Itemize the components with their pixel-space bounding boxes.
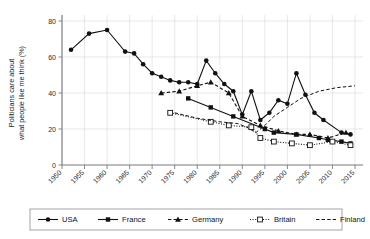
series-marker-britain: [258, 136, 263, 141]
series-marker-usa: [213, 71, 218, 76]
y-tick-label: 80: [48, 18, 56, 25]
legend-label-germany: Germany: [192, 215, 223, 224]
x-tick-label: 1980: [182, 169, 198, 185]
x-tick-label: 1995: [250, 169, 266, 185]
series-marker-britain: [308, 143, 313, 148]
series-marker-usa: [222, 82, 227, 87]
series-marker-germany: [343, 130, 349, 135]
legend-label-france: France: [122, 215, 146, 224]
x-tick-label: 2000: [272, 169, 288, 185]
series-marker-usa: [177, 80, 182, 85]
x-tick-label: 1985: [205, 169, 221, 185]
series-marker-germany: [307, 132, 313, 137]
series-marker-usa: [321, 118, 326, 123]
series-marker-usa: [294, 71, 299, 76]
chart-container: 1950195519601965197019751980198519901995…: [0, 0, 370, 239]
series-marker-usa: [231, 89, 236, 94]
y-tick-label: 60: [48, 54, 56, 61]
x-tick-label: 1955: [69, 169, 85, 185]
legend-marker-usa: [46, 217, 51, 222]
series-marker-usa: [249, 89, 254, 94]
series-marker-france: [209, 105, 213, 109]
series-marker-usa: [276, 98, 281, 103]
series-marker-france: [272, 130, 276, 134]
series-marker-france: [186, 96, 190, 100]
legend-marker-france: [106, 217, 110, 221]
y-axis-tick-labels: 020406080: [48, 18, 56, 169]
x-tick-label: 2005: [295, 169, 311, 185]
series-marker-usa: [159, 75, 164, 80]
series-marker-britain: [226, 123, 231, 128]
series-marker-usa: [150, 71, 155, 76]
legend-label-finland: Finland: [340, 215, 365, 224]
x-axis-tick-labels: 1950195519601965197019751980198519901995…: [47, 169, 356, 185]
series-marker-usa: [105, 28, 110, 33]
y-axis-title-line: what people like me think (%): [17, 46, 26, 141]
gridlines: [62, 15, 363, 165]
series-marker-usa: [132, 51, 137, 56]
y-tick-label: 20: [48, 126, 56, 133]
series-marker-usa: [123, 49, 128, 54]
series-marker-usa: [168, 78, 173, 83]
x-tick-label: 1990: [227, 169, 243, 185]
series-marker-france: [231, 114, 235, 118]
series-marker-usa: [348, 132, 353, 137]
legend-label-britain: Britain: [274, 215, 296, 224]
series-marker-germany: [208, 79, 214, 84]
y-tick-label: 0: [52, 162, 56, 169]
series-marker-usa: [285, 102, 290, 107]
x-tick-label: 2010: [317, 169, 333, 185]
series-marker-britain: [289, 141, 294, 146]
x-tick-label: 1950: [47, 169, 63, 185]
y-tick-label: 40: [48, 90, 56, 97]
data-series: [69, 28, 355, 148]
series-marker-usa: [312, 111, 317, 116]
x-tick-label: 1970: [137, 169, 153, 185]
series-marker-germany: [257, 123, 263, 128]
series-marker-britain: [249, 125, 254, 130]
legend-label-usa: USA: [62, 215, 79, 224]
series-marker-usa: [87, 31, 92, 36]
series-marker-britain: [271, 139, 276, 144]
series-marker-usa: [69, 48, 74, 53]
x-tick-label: 1965: [114, 169, 130, 185]
x-tick-label: 1975: [159, 169, 175, 185]
x-tick-label: 2015: [340, 169, 356, 185]
line-chart: 1950195519601965197019751980198519901995…: [0, 0, 370, 239]
series-marker-britain: [330, 139, 335, 144]
series-marker-usa: [186, 80, 191, 85]
series-marker-usa: [267, 111, 272, 116]
series-marker-usa: [204, 58, 209, 63]
series-marker-usa: [141, 62, 146, 67]
series-marker-britain: [168, 110, 173, 115]
chart-legend: USAFranceGermanyBritainFinland: [30, 209, 365, 230]
series-marker-usa: [258, 118, 263, 123]
y-axis-title-line: Politicians care about: [7, 59, 16, 127]
series-marker-germany: [226, 90, 232, 95]
legend-marker-britain: [258, 217, 263, 222]
x-tick-label: 1960: [92, 169, 108, 185]
y-axis-label: Politicians care aboutwhat people like m…: [7, 46, 26, 141]
series-marker-britain: [348, 143, 353, 148]
